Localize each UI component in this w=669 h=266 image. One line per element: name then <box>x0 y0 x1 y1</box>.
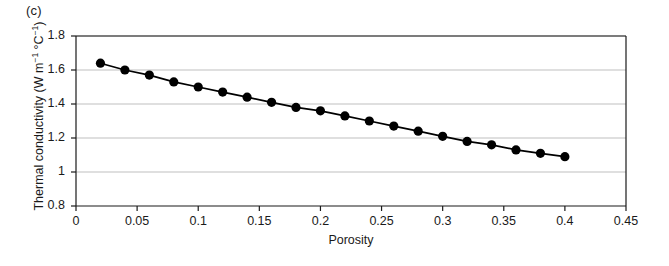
data-point-marker <box>120 65 129 74</box>
x-tick-label: 0.1 <box>175 214 221 228</box>
x-tick-label: 0.3 <box>420 214 466 228</box>
data-point-marker <box>169 77 178 86</box>
data-point-marker <box>414 127 423 136</box>
axes-group <box>76 36 626 206</box>
y-tick-label: 1.6 <box>29 62 65 76</box>
x-tick-label: 0.4 <box>542 214 588 228</box>
y-tick-marks-group <box>71 36 76 206</box>
y-tick-label: 1.8 <box>29 28 65 42</box>
data-point-marker <box>389 122 398 131</box>
y-tick-label: 1.4 <box>29 96 65 110</box>
data-point-marker <box>438 132 447 141</box>
data-point-marker <box>145 71 154 80</box>
data-point-marker <box>340 111 349 120</box>
data-point-marker <box>463 137 472 146</box>
data-point-marker <box>316 106 325 115</box>
data-point-marker <box>96 59 105 68</box>
data-point-marker <box>218 88 227 97</box>
y-tick-label: 0.8 <box>29 198 65 212</box>
data-point-marker <box>511 145 520 154</box>
y-tick-label: 1.2 <box>29 130 65 144</box>
x-tick-label: 0.35 <box>481 214 527 228</box>
data-point-marker <box>291 103 300 112</box>
x-tick-label: 0 <box>53 214 99 228</box>
data-point-marker <box>243 93 252 102</box>
data-point-marker <box>560 152 569 161</box>
x-tick-label: 0.15 <box>236 214 282 228</box>
data-point-marker <box>487 140 496 149</box>
x-tick-label: 0.2 <box>297 214 343 228</box>
x-tick-label: 0.45 <box>603 214 649 228</box>
data-point-marker <box>194 82 203 91</box>
y-tick-label: 1 <box>29 164 65 178</box>
data-point-marker <box>267 98 276 107</box>
x-tick-label: 0.05 <box>114 214 160 228</box>
data-point-marker <box>536 149 545 158</box>
x-tick-marks-group <box>76 206 626 211</box>
figure-panel-c: (c) Thermal conductivity (W m−1 °C−1) Po… <box>0 0 669 266</box>
x-tick-label: 0.25 <box>359 214 405 228</box>
data-point-marker <box>365 116 374 125</box>
